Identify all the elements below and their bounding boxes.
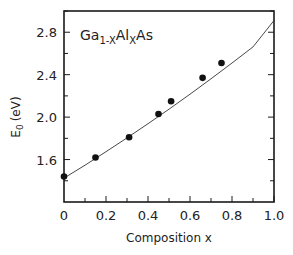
y-axis-title: E0(eV) bbox=[9, 96, 25, 137]
data-point bbox=[126, 134, 133, 141]
data-point bbox=[61, 173, 68, 180]
y-tick-label: 2.4 bbox=[36, 68, 57, 83]
x-tick-label: 0.2 bbox=[96, 208, 117, 223]
chart: 1.62.02.42.8 00.20.40.60.81.0 Ga1-XAlXAs… bbox=[0, 0, 293, 255]
data-point bbox=[92, 154, 99, 161]
x-tick-label: 0 bbox=[60, 208, 68, 223]
x-axis-ticks: 00.20.40.60.81.0 bbox=[60, 196, 284, 223]
x-tick-label: 0.6 bbox=[180, 208, 201, 223]
x-axis-title: Composition x bbox=[126, 231, 212, 245]
data-point bbox=[155, 111, 162, 118]
x-tick-label: 0.4 bbox=[138, 208, 159, 223]
data-point bbox=[199, 75, 206, 82]
data-point bbox=[168, 98, 175, 105]
x-tick-label: 1.0 bbox=[264, 208, 285, 223]
y-tick-label: 2.8 bbox=[36, 25, 57, 40]
compound-annotation: Ga1-XAlXAs bbox=[80, 27, 153, 46]
y-tick-label: 2.0 bbox=[36, 110, 57, 125]
data-point bbox=[218, 60, 225, 67]
data-points bbox=[61, 60, 225, 180]
x-tick-label: 0.8 bbox=[222, 208, 243, 223]
y-tick-label: 1.6 bbox=[36, 153, 57, 168]
y-axis-ticks: 1.62.02.42.8 bbox=[36, 11, 274, 181]
